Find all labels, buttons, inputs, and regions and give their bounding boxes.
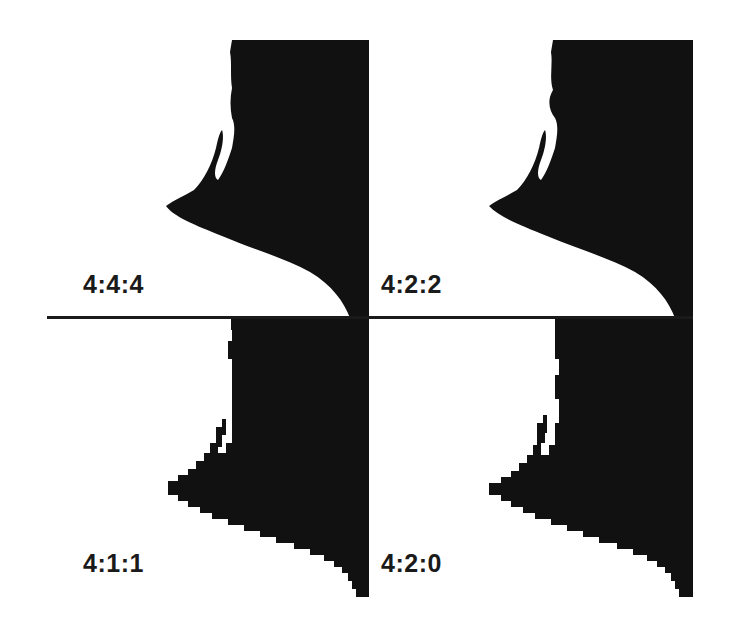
silhouette-411: [160, 319, 370, 599]
silhouette-422: [483, 40, 693, 320]
panel-422: [483, 40, 693, 320]
panel-420: [483, 319, 693, 599]
label-422: 4:2:2: [381, 270, 442, 299]
silhouette-420: [483, 319, 693, 599]
label-411: 4:1:1: [83, 549, 144, 578]
panel-411: [160, 319, 370, 599]
panel-444: [160, 40, 370, 320]
label-444: 4:4:4: [83, 270, 144, 299]
label-420: 4:2:0: [381, 549, 442, 578]
silhouette-444: [160, 40, 370, 320]
